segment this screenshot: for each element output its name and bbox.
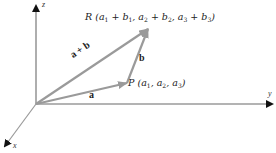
- vector-a: [36, 83, 127, 104]
- point-r-coords: (a1 + b1, a2 + b2, a3 + b3): [95, 11, 215, 22]
- x-axis: [5, 104, 36, 146]
- x-axis-label: x: [13, 142, 17, 150]
- point-p-coords: (a1, a2, a3): [137, 77, 185, 88]
- point-p-name: P: [128, 77, 134, 88]
- vector-b-label: b: [139, 53, 145, 63]
- z-axis-label: z: [42, 1, 45, 9]
- point-p-label: P (a1, a2, a3): [128, 78, 185, 89]
- point-r-name: R: [85, 11, 92, 22]
- vector-a-label: a: [89, 90, 94, 100]
- point-r-label: R (a1 + b1, a2 + b2, a3 + b3): [85, 12, 215, 23]
- y-axis-label: y: [268, 90, 272, 98]
- vector-diagram: z y x a b a + b R (a1 + b1, a2 + b2, a3 …: [0, 0, 276, 153]
